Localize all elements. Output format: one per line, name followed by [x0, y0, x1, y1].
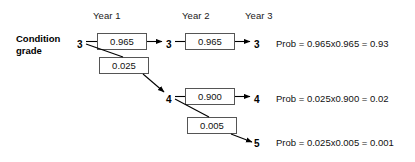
node-start-grade-3: 3 [77, 39, 83, 50]
condition-grade-transition-diagram: Year 1 Year 2 Year 3 Condition grade 3 3… [0, 0, 415, 162]
node-year3-grade-3: 3 [254, 39, 260, 50]
transition-box-year2-stay-4: 0.900 [185, 88, 235, 105]
arrow-y1-drop-to-grade4 [143, 74, 164, 92]
probability-path-3-4-4: Prob = 0.025x0.900 = 0.02 [276, 93, 389, 104]
transition-box-year1-stay-3: 0.965 [97, 33, 147, 50]
probability-path-3-4-5: Prob = 0.025x0.005 = 0.001 [276, 137, 394, 148]
transition-box-year1-drop-4: 0.025 [99, 57, 149, 74]
node-year3-grade-4: 4 [254, 94, 260, 105]
node-year2-grade-3: 3 [166, 39, 172, 50]
condition-grade-caption-line-2: grade [16, 45, 42, 57]
year-3-header: Year 3 [245, 10, 273, 21]
transition-box-year2-drop-5: 0.005 [187, 117, 237, 134]
transition-box-year2-stay-3: 0.965 [185, 33, 235, 50]
arrow-y2-drop5-to-grade5 [231, 134, 252, 142]
node-year2-grade-4: 4 [166, 94, 172, 105]
probability-path-3-3-3: Prob = 0.965x0.965 = 0.93 [276, 38, 389, 49]
year-2-header: Year 2 [182, 10, 210, 21]
condition-grade-caption-line-1: Condition [16, 33, 60, 45]
node-year3-grade-5: 5 [254, 138, 260, 149]
year-1-header: Year 1 [93, 10, 121, 21]
